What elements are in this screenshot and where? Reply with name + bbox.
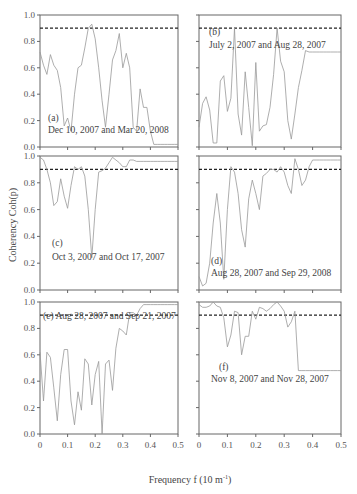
coherency-figure: 0.00.20.40.60.81.0(a)Dec 10, 2007 and Ma… — [0, 0, 357, 494]
panel-caption: Dec 10, 2007 and Mar 20, 2008 — [48, 125, 169, 135]
y-tick-label: 0.2 — [24, 116, 35, 126]
x-tick-label: 0.3 — [279, 440, 291, 450]
y-tick-label: 0.6 — [24, 63, 36, 73]
panel-e: 0.00.20.40.60.81.000.10.20.30.40.5(e) Au… — [24, 297, 184, 450]
panel-caption: Aug 28, 2007 and Sep 29, 2008 — [211, 268, 332, 278]
panel-d: (d)Aug 28, 2007 and Sep 29, 2008 — [196, 156, 341, 293]
x-tick-label: 0.1 — [222, 440, 233, 450]
y-tick-label: 1.0 — [24, 297, 36, 307]
x-tick-label: 0.5 — [172, 440, 184, 450]
y-tick-label: 0.8 — [24, 178, 36, 188]
y-tick-label: 0.0 — [24, 285, 36, 295]
panel-caption: Nov 8, 2007 and Nov 28, 2007 — [211, 374, 329, 384]
x-axis-title-end: ) — [228, 474, 231, 486]
y-tick-label: 0.8 — [24, 323, 36, 333]
panel-annotation: (e) Aug 28, 2007 and Sep 21, 2007 — [43, 311, 176, 322]
panel-c: 0.00.20.40.60.81.0(c)Oct 3, 2007 and Oct… — [24, 151, 178, 295]
y-tick-label: 0.4 — [24, 231, 36, 241]
series-line-d — [199, 159, 341, 286]
series-line-e — [40, 305, 178, 434]
y-tick-label: 0.2 — [24, 403, 35, 413]
x-tick-label: 0.2 — [90, 440, 101, 450]
panel-label: (a) — [48, 113, 59, 124]
y-tick-label: 0.0 — [24, 429, 36, 439]
panel-label: (f) — [219, 362, 229, 373]
panel-caption: July 2, 2007 and Aug 28, 2007 — [209, 40, 326, 50]
x-tick-label: 0 — [38, 440, 43, 450]
panel-b: (b)July 2, 2007 and Aug 28, 2007 — [196, 15, 341, 150]
panel-a: 0.00.20.40.60.81.0(a)Dec 10, 2007 and Ma… — [24, 10, 178, 152]
x-tick-label: 0.2 — [250, 440, 261, 450]
y-tick-label: 0.6 — [24, 205, 36, 215]
x-tick-label: 0.1 — [62, 440, 73, 450]
x-tick-label: 0.5 — [335, 440, 347, 450]
panel-label: (b) — [209, 27, 220, 38]
panel-label: (c) — [52, 238, 63, 249]
y-tick-label: 0.2 — [24, 258, 35, 268]
x-tick-label: 0.3 — [117, 440, 129, 450]
x-tick-label: 0 — [197, 440, 202, 450]
x-axis-title: Frequency f (10 m-1) — [149, 474, 232, 486]
y-tick-label: 1.0 — [24, 10, 36, 20]
panels-group: 0.00.20.40.60.81.0(a)Dec 10, 2007 and Ma… — [24, 10, 347, 450]
x-tick-label: 0.4 — [307, 440, 319, 450]
panel-f: 00.10.20.30.40.5(f)Nov 8, 2007 and Nov 2… — [196, 302, 347, 450]
y-tick-label: 0.4 — [24, 376, 36, 386]
series-line-f — [199, 302, 341, 371]
panel-label: (d) — [211, 256, 222, 267]
panel-frame — [40, 302, 178, 434]
y-tick-label: 1.0 — [24, 151, 36, 161]
y-axis-title: Coherency Coh(p) — [7, 188, 19, 262]
y-tick-label: 0.8 — [24, 36, 36, 46]
y-tick-label: 0.4 — [24, 89, 36, 99]
x-tick-label: 0.4 — [145, 440, 157, 450]
panel-frame — [40, 156, 178, 290]
y-tick-label: 0.6 — [24, 350, 36, 360]
x-axis-title-main: Frequency f (10 m — [149, 474, 223, 486]
panel-caption: Oct 3, 2007 and Oct 17, 2007 — [52, 252, 165, 262]
